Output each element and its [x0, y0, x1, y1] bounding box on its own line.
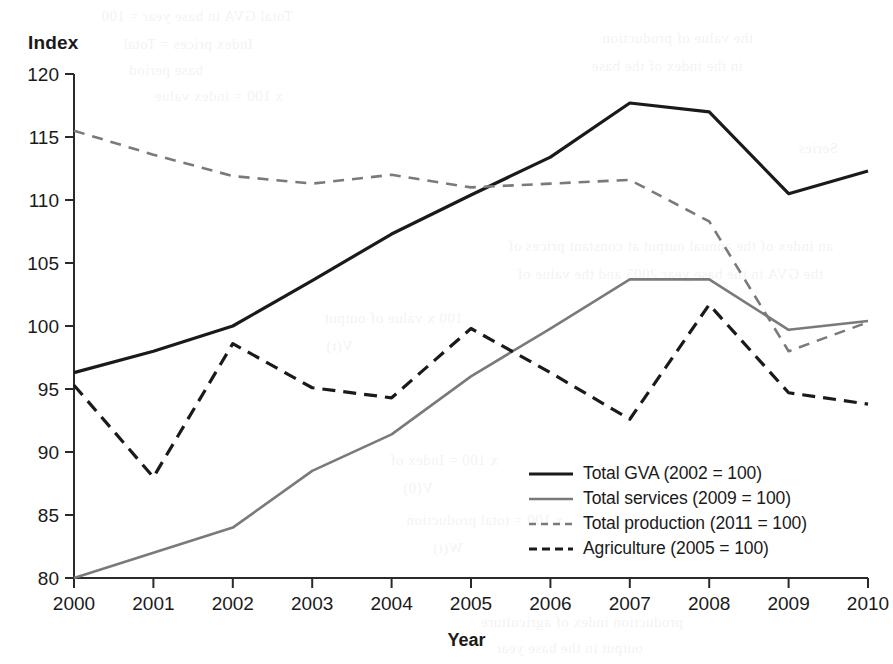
x-axis-title: Year [0, 630, 893, 651]
x-tick-label: 2010 [847, 593, 889, 614]
x-tick-label: 2006 [529, 593, 571, 614]
legend-item[interactable]: Agriculture (2005 = 100) [528, 536, 878, 561]
x-tick-label: 2001 [132, 593, 174, 614]
chart-legend: Total GVA (2002 = 100)Total services (20… [528, 461, 878, 561]
x-tick-label: 2000 [53, 593, 95, 614]
x-tick-label: 2003 [291, 593, 333, 614]
x-axis-ticks: 2000200120022003200420052006200720082009… [53, 578, 889, 614]
series-line-0 [74, 103, 868, 373]
chart-container: Index 80859095100105110115120 2000200120… [0, 0, 893, 664]
legend-item[interactable]: Total GVA (2002 = 100) [528, 461, 878, 486]
x-tick-label: 2005 [450, 593, 492, 614]
legend-swatch-icon [528, 467, 574, 481]
series-line-3 [74, 305, 868, 478]
legend-label: Total services (2009 = 100) [583, 488, 791, 509]
legend-swatch-icon [528, 517, 574, 531]
series-line-2 [74, 131, 868, 352]
x-tick-label: 2007 [609, 593, 651, 614]
legend-item[interactable]: Total production (2011 = 100) [528, 511, 878, 536]
legend-label: Total GVA (2002 = 100) [583, 463, 762, 484]
chart-plot-area: 80859095100105110115120 2000200120022003… [0, 0, 893, 664]
y-tick-label: 115 [29, 127, 59, 148]
y-tick-label: 80 [38, 568, 59, 589]
y-tick-label: 105 [27, 253, 59, 274]
x-tick-label: 2009 [767, 593, 809, 614]
y-tick-label: 90 [38, 442, 59, 463]
legend-swatch-icon [528, 542, 574, 556]
x-tick-label: 2002 [212, 593, 254, 614]
y-tick-label: 95 [38, 379, 59, 400]
y-tick-label: 85 [38, 505, 59, 526]
y-tick-label: 120 [27, 64, 59, 85]
legend-swatch-icon [528, 492, 574, 506]
legend-label: Total production (2011 = 100) [583, 513, 807, 534]
x-tick-label: 2008 [688, 593, 730, 614]
legend-label: Agriculture (2005 = 100) [583, 538, 769, 559]
y-tick-label: 110 [29, 190, 59, 211]
y-axis-ticks: 80859095100105110115120 [27, 64, 74, 589]
y-tick-label: 100 [27, 316, 59, 337]
x-axis-title-text: Year [447, 630, 485, 650]
x-tick-label: 2004 [370, 593, 413, 614]
legend-item[interactable]: Total services (2009 = 100) [528, 486, 878, 511]
